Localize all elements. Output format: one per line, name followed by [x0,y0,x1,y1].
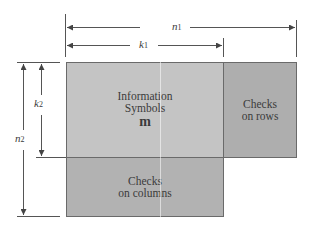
message-symbol: m [139,114,151,130]
info-line1: Information [118,90,173,102]
k1-label: k1 [137,38,150,50]
scan-fold-line [160,62,161,217]
n2-label: n2 [13,132,27,144]
cols-line1: Checks [128,175,162,187]
checks-on-rows-block: Checks on rows [223,62,297,158]
k2-label: k2 [32,97,45,109]
n1-label: n1 [170,20,184,32]
checks-on-columns-block: Checks on columns [66,157,224,217]
rows-line2: on rows [242,110,279,122]
rows-line1: Checks [243,98,277,110]
cols-line2: on columns [118,187,171,199]
information-symbols-block: Information Symbols m [66,62,224,158]
